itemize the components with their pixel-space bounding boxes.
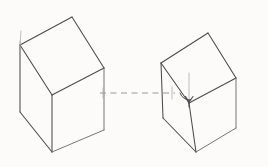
cube-sketch-drawing bbox=[0, 0, 268, 167]
sketch-canvas bbox=[0, 0, 268, 167]
